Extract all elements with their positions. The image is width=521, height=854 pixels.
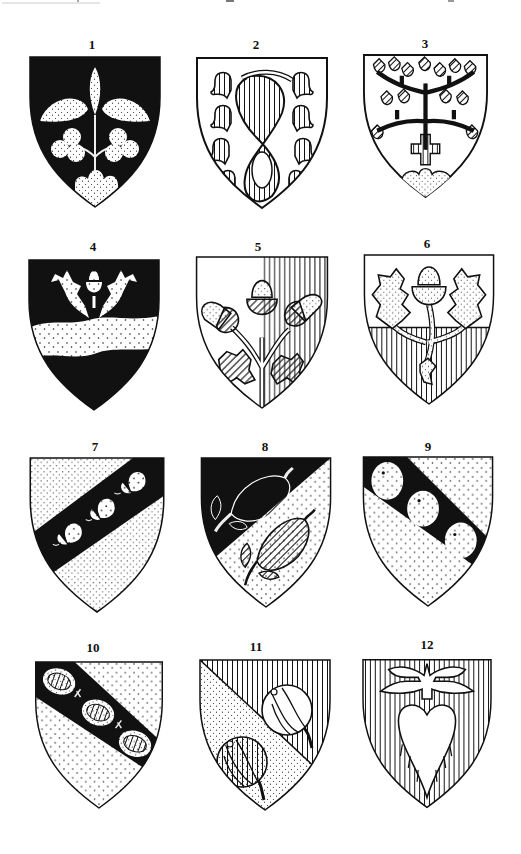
shield-6-graphic bbox=[364, 255, 494, 404]
shield-10-graphic bbox=[33, 662, 165, 808]
shield-label: 8 bbox=[245, 440, 285, 454]
shield-3-graphic bbox=[363, 55, 488, 197]
shield-9-graphic bbox=[363, 457, 493, 606]
shield-label: 6 bbox=[407, 237, 447, 251]
shield-label: 7 bbox=[75, 440, 115, 454]
heraldry-plate: 1 2 bbox=[0, 0, 521, 854]
shield-12-graphic bbox=[363, 659, 491, 808]
cropped-caption-residue bbox=[0, 0, 521, 6]
shield-11-graphic bbox=[200, 660, 330, 810]
shield-label: 11 bbox=[236, 640, 276, 654]
shield-1-graphic bbox=[30, 56, 160, 208]
shield-label: 2 bbox=[236, 38, 276, 52]
shield-label: 3 bbox=[405, 37, 445, 51]
shield-label: 4 bbox=[73, 240, 113, 254]
shield-5-graphic bbox=[194, 257, 330, 408]
shield-label: 10 bbox=[73, 641, 113, 655]
shield-label: 5 bbox=[238, 240, 278, 254]
shield-2-graphic bbox=[197, 58, 327, 208]
shield-label: 12 bbox=[407, 638, 447, 652]
shield-4-graphic bbox=[29, 258, 159, 412]
shield-label: 1 bbox=[72, 38, 112, 52]
shield-7-graphic bbox=[30, 458, 164, 612]
shield-8-graphic bbox=[201, 458, 331, 607]
shield-label: 9 bbox=[408, 440, 448, 454]
